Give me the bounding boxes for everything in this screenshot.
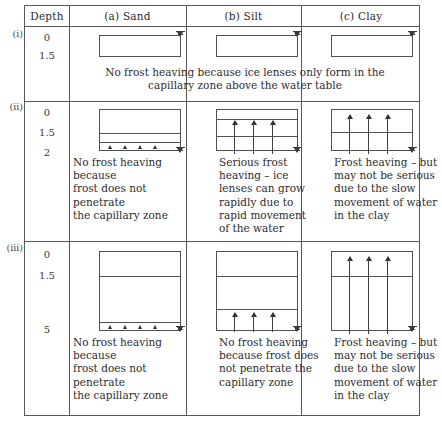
profile-box-i-silt — [216, 35, 298, 57]
row-label-iii: (iii) — [1, 242, 23, 253]
row-note-i-shared: No frost heaving because ice lenses only… — [69, 66, 421, 92]
frost-line-iii-sand — [100, 276, 180, 277]
profile-box-i-sand — [99, 35, 181, 57]
cell-note-ii-silt: Serious frost heaving – ice lenses can g… — [219, 156, 323, 235]
water-table-symbol-i-silt — [293, 31, 302, 40]
row-label-ii: (ii) — [1, 101, 23, 112]
upward-arrow-icon — [346, 256, 353, 330]
capillary-tick-icon — [138, 325, 142, 329]
profile-box-ii-sand — [99, 109, 181, 151]
column-header-clay: (c) Clay — [301, 8, 421, 25]
water-table-symbol-i-sand — [176, 31, 185, 40]
depth-label-iii-1.5: 1.5 — [25, 270, 69, 281]
capillary-tick-icon — [108, 325, 112, 329]
frost-heaving-table: Depth (a) Sand (b) Silt (c) Clay 0 1.5 N… — [24, 5, 420, 416]
depth-label-ii-2: 2 — [25, 147, 69, 158]
column-header-depth: Depth — [25, 8, 69, 25]
capillary-line-iii-silt — [217, 309, 297, 310]
profile-box-ii-clay — [331, 109, 413, 151]
water-table-symbol-ii-sand — [176, 147, 185, 156]
row-label-i: (i) — [1, 28, 23, 39]
cell-note-iii-sand: No frost heaving because frost does not … — [73, 336, 185, 402]
depth-label-iii-5: 5 — [25, 324, 69, 335]
profile-box-ii-silt — [216, 109, 298, 151]
upward-arrow-icon — [231, 312, 238, 330]
upward-arrow-icon — [384, 114, 391, 150]
cell-note-ii-sand: No frost heaving because frost does not … — [73, 156, 183, 222]
water-table-symbol-ii-clay — [408, 147, 417, 156]
frost-line-iii-clay — [332, 276, 412, 277]
capillary-line-ii-sand — [100, 142, 180, 143]
profile-box-i-clay — [331, 35, 413, 57]
frost-line-ii-clay — [332, 132, 412, 133]
frost-line-ii-sand — [100, 133, 180, 134]
upward-arrow-icon — [346, 114, 353, 150]
capillary-tick-icon — [108, 145, 112, 149]
water-table-symbol-iii-sand — [176, 326, 185, 335]
frost-line-iii-silt — [217, 276, 297, 277]
depth-label-ii-1.5: 1.5 — [25, 127, 69, 138]
header-divider — [25, 26, 419, 27]
depth-label-iii-0: 0 — [25, 249, 69, 260]
cell-note-iii-clay: Frost heaving – but may not be serious d… — [334, 336, 442, 402]
capillary-tick-icon — [153, 145, 157, 149]
profile-box-iii-sand — [99, 251, 181, 331]
profile-box-iii-silt — [216, 251, 298, 331]
upward-arrow-icon — [231, 120, 238, 150]
frost-line-ii-silt — [217, 119, 297, 120]
upward-arrow-icon — [365, 114, 372, 150]
capillary-line-ii-silt — [217, 136, 297, 137]
column-header-silt: (b) Silt — [186, 8, 301, 25]
row-divider-ii — [25, 241, 419, 242]
capillary-line-iii-sand — [100, 322, 180, 323]
water-table-symbol-iii-clay — [408, 326, 417, 335]
capillary-tick-icon — [123, 145, 127, 149]
cell-note-iii-silt: No frost heaving because frost does not … — [219, 336, 323, 389]
profile-box-iii-clay — [331, 251, 413, 331]
water-table-symbol-i-clay — [408, 31, 417, 40]
capillary-tick-icon — [123, 325, 127, 329]
row-divider-i — [25, 101, 419, 102]
column-header-sand: (a) Sand — [69, 8, 186, 25]
upward-arrow-icon — [269, 120, 276, 150]
upward-arrow-icon — [365, 256, 372, 330]
upward-arrow-icon — [269, 312, 276, 330]
depth-label-ii-0: 0 — [25, 107, 69, 118]
capillary-tick-icon — [153, 325, 157, 329]
cell-note-ii-clay: Frost heaving – but may not be serious d… — [334, 156, 440, 222]
water-table-symbol-iii-silt — [293, 326, 302, 335]
depth-label-i-0: 0 — [25, 32, 69, 43]
upward-arrow-icon — [250, 312, 257, 330]
depth-label-i-1.5: 1.5 — [25, 50, 69, 61]
capillary-tick-icon — [138, 145, 142, 149]
upward-arrow-icon — [250, 120, 257, 150]
upward-arrow-icon — [384, 256, 391, 330]
water-table-symbol-ii-silt — [293, 147, 302, 156]
